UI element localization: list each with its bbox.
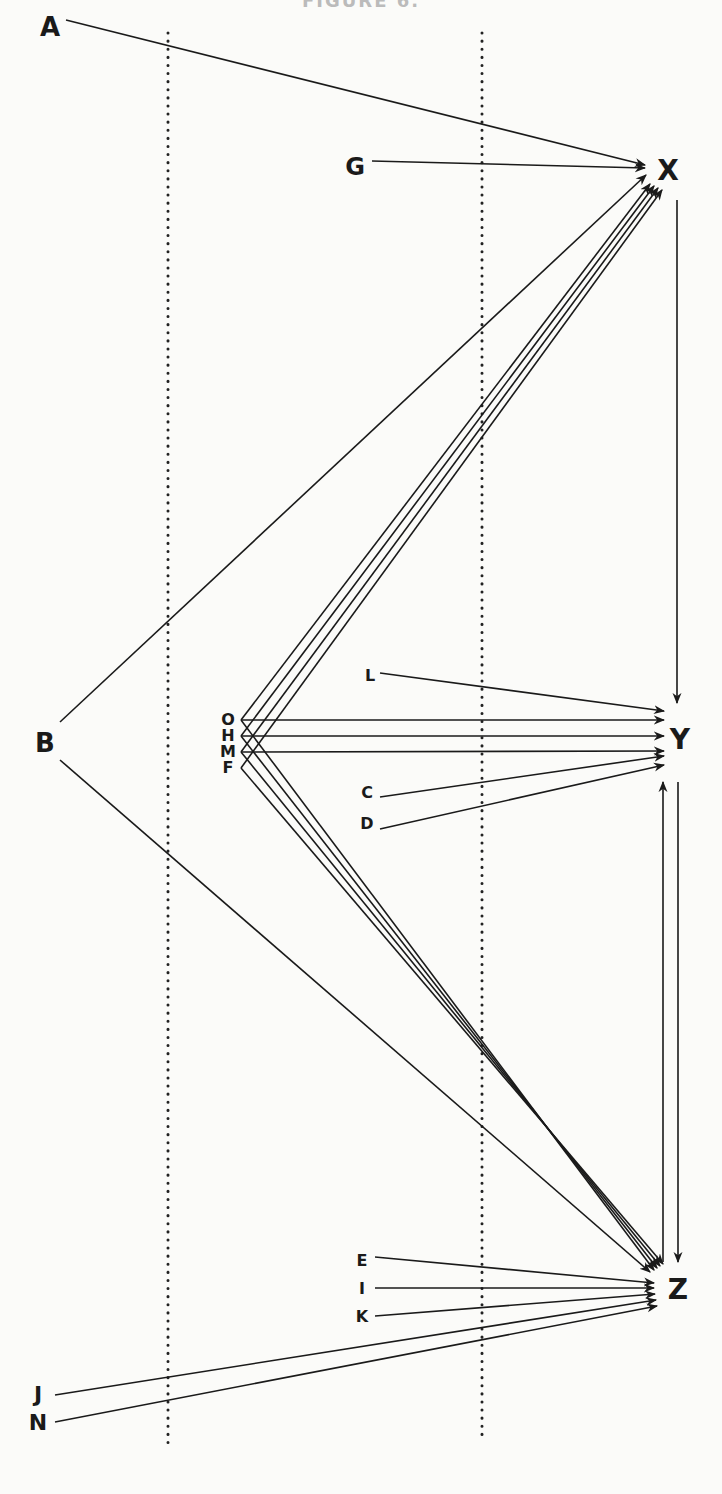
node-j: J <box>32 1382 42 1407</box>
edge-h-to-x <box>241 186 654 736</box>
node-a: A <box>40 12 60 42</box>
figure-caption: FIGURE 6. <box>0 0 722 11</box>
edge-m-to-z <box>241 752 660 1266</box>
node-i: I <box>359 1279 365 1298</box>
node-x: X <box>657 154 679 187</box>
diagram-canvas: FIGURE 6. AGXBOHMFLCDYEIKJNZ <box>0 0 722 1494</box>
edge-f-to-x <box>241 190 662 768</box>
dotted-dividers <box>168 33 482 1450</box>
edge-h-to-z <box>241 736 657 1268</box>
edge-o-to-z <box>241 720 654 1270</box>
edge-d-to-y <box>380 765 664 829</box>
edge-m-to-y <box>241 751 664 752</box>
edge-c-to-y <box>380 756 664 797</box>
node-f: F <box>223 758 234 777</box>
node-n: N <box>29 1410 47 1435</box>
node-b: B <box>35 728 55 758</box>
node-z: Z <box>668 1273 688 1306</box>
edge-l-to-y <box>380 673 664 711</box>
node-y: Y <box>669 723 691 756</box>
node-k: K <box>356 1307 369 1326</box>
edges <box>55 20 678 1422</box>
edge-b-to-x <box>60 175 646 722</box>
edge-e-to-z <box>375 1257 654 1283</box>
edge-f-to-z <box>241 768 663 1264</box>
node-e: E <box>357 1251 368 1270</box>
node-l: L <box>365 666 375 685</box>
node-g: G <box>345 153 365 181</box>
edge-a-to-x <box>66 20 645 165</box>
edge-m-to-x <box>241 188 658 752</box>
edge-o-to-x <box>241 184 650 720</box>
node-c: C <box>361 783 373 802</box>
edge-b-to-z <box>60 760 650 1272</box>
edge-g-to-x <box>372 161 645 168</box>
edge-k-to-z <box>375 1294 655 1316</box>
flow-diagram: AGXBOHMFLCDYEIKJNZ <box>0 0 722 1494</box>
node-d: D <box>360 814 373 833</box>
